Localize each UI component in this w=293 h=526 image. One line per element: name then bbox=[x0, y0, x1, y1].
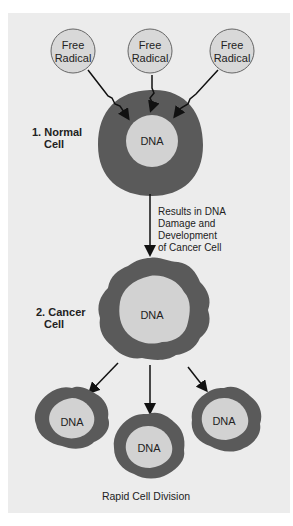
radical-label: Free bbox=[139, 39, 162, 51]
transition-text: Development bbox=[158, 230, 217, 241]
daughter-cell-3: DNA bbox=[192, 387, 262, 452]
transition-text: of Cancer Cell bbox=[158, 242, 221, 253]
division-arrow bbox=[188, 367, 206, 390]
normal-cell-label: 1. Normal bbox=[32, 126, 82, 138]
caption: Rapid Cell Division bbox=[102, 490, 190, 502]
radical-label: Radical bbox=[55, 52, 92, 64]
cell-diagram: Free Radical Free Radical Free Radical D… bbox=[0, 0, 293, 526]
radical-label: Free bbox=[62, 39, 85, 51]
dna-label: DNA bbox=[140, 309, 164, 321]
dna-label: DNA bbox=[212, 415, 236, 427]
daughter-cell-1: DNA bbox=[35, 387, 109, 449]
dna-label: DNA bbox=[137, 442, 161, 454]
radical-label: Radical bbox=[132, 52, 169, 64]
free-radical-1: Free Radical bbox=[51, 29, 95, 73]
normal-cell: DNA bbox=[98, 90, 203, 196]
radical-label: Free bbox=[221, 39, 244, 51]
cancer-cell-label: 2. Cancer bbox=[36, 306, 86, 318]
transition-text: Damage and bbox=[158, 218, 215, 229]
transition-text: Results in DNA bbox=[158, 206, 226, 217]
daughter-cell-2: DNA bbox=[114, 413, 185, 479]
cancer-cell-label: Cell bbox=[44, 318, 64, 330]
cancer-cell: DNA bbox=[98, 258, 209, 360]
free-radical-2: Free Radical bbox=[128, 29, 172, 73]
normal-cell-label: Cell bbox=[44, 138, 64, 150]
dna-label: DNA bbox=[60, 416, 84, 428]
division-arrow bbox=[90, 363, 118, 392]
radical-label: Radical bbox=[214, 52, 251, 64]
free-radical-3: Free Radical bbox=[210, 29, 254, 73]
dna-label: DNA bbox=[140, 135, 164, 147]
